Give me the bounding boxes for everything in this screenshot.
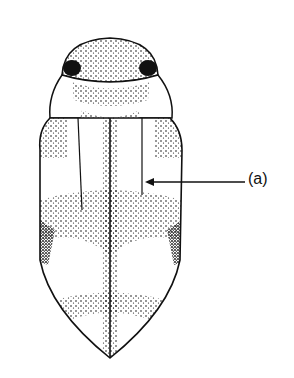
beetle-elytra [38, 118, 185, 358]
label-a: (a) [248, 170, 268, 188]
beetle-head [62, 38, 158, 82]
beetle-illustration [0, 0, 294, 378]
